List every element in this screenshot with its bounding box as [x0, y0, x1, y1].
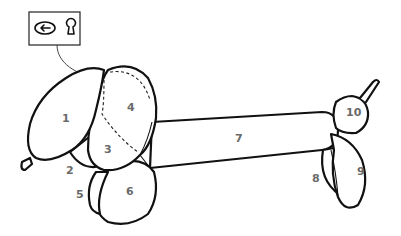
- label-6: 6: [126, 185, 134, 198]
- label-4: 4: [127, 101, 135, 114]
- label-3: 3: [104, 143, 112, 156]
- label-9: 9: [357, 165, 365, 178]
- balloon-knot: [21, 158, 32, 170]
- label-1: 1: [62, 112, 70, 125]
- balloon-tail-tip: [360, 80, 379, 102]
- balloon-body: [150, 112, 338, 168]
- label-2: 2: [66, 164, 74, 177]
- label-10: 10: [346, 106, 362, 119]
- balloon-dog-diagram: 1 2 3 4 5 6 7 8 9 10: [0, 0, 401, 236]
- label-8: 8: [312, 172, 320, 185]
- label-5: 5: [76, 188, 84, 201]
- label-7: 7: [235, 132, 243, 145]
